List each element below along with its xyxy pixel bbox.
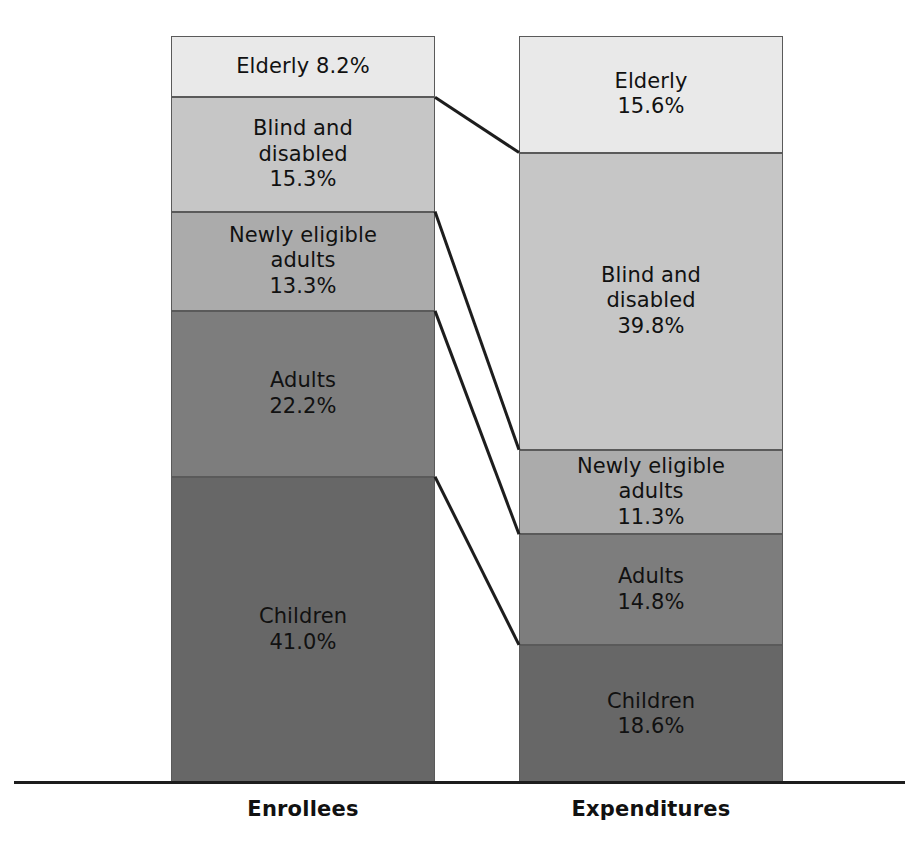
bar-segment-label: Children 41.0% bbox=[253, 604, 353, 655]
bar-segment-enrollees-children[interactable]: Children 41.0% bbox=[171, 477, 435, 783]
bar-segment-label: Blind and disabled 39.8% bbox=[595, 263, 707, 340]
bar-segment-expenditures-blind[interactable]: Blind and disabled 39.8% bbox=[519, 153, 783, 450]
stacked-bar-chart: Elderly 8.2%Blind and disabled 15.3%Newl… bbox=[0, 0, 915, 867]
bar-segment-expenditures-children[interactable]: Children 18.6% bbox=[519, 645, 783, 784]
connector-line-newly bbox=[435, 212, 519, 450]
bar-segment-expenditures-adults[interactable]: Adults 14.8% bbox=[519, 534, 783, 645]
bar-segment-label: Children 18.6% bbox=[601, 689, 701, 740]
connector-line-adults bbox=[435, 311, 519, 534]
bar-segment-label: Newly eligible adults 11.3% bbox=[571, 454, 731, 531]
category-label-expenditures: Expenditures bbox=[519, 797, 783, 821]
bar-segment-label: Elderly 15.6% bbox=[609, 69, 694, 120]
bar-segment-expenditures-newly[interactable]: Newly eligible adults 11.3% bbox=[519, 450, 783, 534]
axis-baseline bbox=[14, 781, 905, 784]
bar-segment-label: Elderly 8.2% bbox=[230, 54, 375, 80]
category-label-enrollees: Enrollees bbox=[171, 797, 435, 821]
bar-segment-label: Adults 14.8% bbox=[611, 564, 690, 615]
bar-segment-label: Newly eligible adults 13.3% bbox=[223, 223, 383, 300]
bar-segment-enrollees-adults[interactable]: Adults 22.2% bbox=[171, 311, 435, 477]
bar-column-expenditures: Elderly 15.6%Blind and disabled 39.8%New… bbox=[519, 36, 783, 783]
bar-segment-label: Blind and disabled 15.3% bbox=[247, 116, 359, 193]
bar-segment-enrollees-elderly[interactable]: Elderly 8.2% bbox=[171, 36, 435, 97]
bar-segment-label: Adults 22.2% bbox=[263, 368, 342, 419]
bar-segment-enrollees-blind[interactable]: Blind and disabled 15.3% bbox=[171, 97, 435, 211]
bar-column-enrollees: Elderly 8.2%Blind and disabled 15.3%Newl… bbox=[171, 36, 435, 783]
connector-line-blind bbox=[435, 97, 519, 152]
connector-line-children bbox=[435, 477, 519, 645]
bar-segment-enrollees-newly[interactable]: Newly eligible adults 13.3% bbox=[171, 212, 435, 311]
bar-segment-expenditures-elderly[interactable]: Elderly 15.6% bbox=[519, 36, 783, 153]
